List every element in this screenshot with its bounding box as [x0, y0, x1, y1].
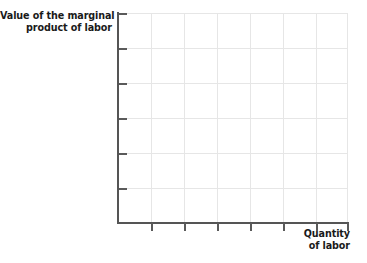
- gridline-vertical: [217, 13, 218, 223]
- gridline-vertical: [347, 13, 348, 223]
- y-axis-tick: [119, 118, 127, 120]
- gridline-horizontal: [118, 188, 348, 189]
- x-axis-tick: [151, 223, 153, 231]
- x-axis-tick: [184, 223, 186, 231]
- gridline-vertical: [283, 13, 284, 223]
- y-axis-tick: [119, 13, 127, 15]
- gridline-vertical: [184, 13, 185, 223]
- gridline-horizontal: [118, 83, 348, 84]
- chart-figure: Value of the marginal product of labor: [0, 0, 367, 263]
- gridline-horizontal: [118, 48, 348, 49]
- y-axis-tick: [119, 83, 127, 85]
- gridline-vertical: [316, 13, 317, 223]
- y-axis-label-line-1: Value of the marginal: [0, 10, 112, 22]
- x-axis-label: Quantity of labor: [252, 228, 350, 253]
- y-axis-label: Value of the marginal product of labor: [0, 10, 112, 35]
- plot-area: [118, 13, 348, 223]
- x-axis-label-line-2: of labor: [252, 240, 350, 252]
- x-axis-label-line-1: Quantity: [252, 228, 350, 240]
- y-axis-tick: [119, 153, 127, 155]
- x-axis-tick: [217, 223, 219, 231]
- y-axis-tick: [119, 48, 127, 50]
- y-axis-label-line-2: product of labor: [0, 22, 112, 34]
- gridline-horizontal: [118, 13, 348, 14]
- gridline-horizontal: [118, 153, 348, 154]
- y-axis-tick: [119, 188, 127, 190]
- gridline-vertical: [250, 13, 251, 223]
- gridline-horizontal: [118, 118, 348, 119]
- gridline-vertical: [151, 13, 152, 223]
